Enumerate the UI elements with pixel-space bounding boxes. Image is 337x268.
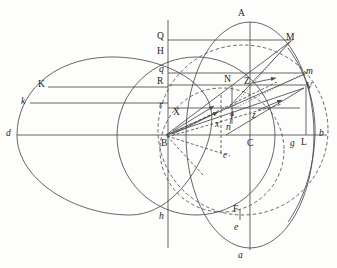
point-label-V: V	[306, 82, 313, 92]
point-label-c: c	[223, 151, 227, 161]
point-label-Q: Q	[157, 32, 164, 42]
point-label-d: d	[6, 129, 11, 139]
point-label-a: a	[238, 251, 243, 261]
point-label-m: m	[306, 67, 313, 77]
point-label-h: h	[159, 212, 164, 222]
point-label-L: L	[301, 138, 307, 148]
ray-B-to-V	[166, 88, 304, 135]
point-label-M: M	[286, 33, 294, 43]
point-label-H: H	[157, 47, 164, 57]
point-label-n: n	[226, 123, 231, 133]
point-label-X: X	[173, 108, 180, 118]
point-label-Z: Z	[244, 77, 250, 87]
point-label-A: A	[238, 9, 245, 19]
point-label-z: z	[252, 111, 256, 121]
point-label-x: x	[215, 120, 219, 130]
point-label-B: B	[161, 139, 167, 149]
circle-centre-B	[117, 57, 275, 215]
dashed-B-to-lower	[167, 136, 203, 175]
point-label-K: K	[38, 80, 45, 90]
point-label-r: r	[159, 101, 163, 111]
point-label-N: N	[224, 75, 231, 85]
segment-N-to-M	[228, 41, 291, 108]
dashed-B-to-c	[167, 136, 230, 156]
point-label-q: q	[159, 65, 164, 75]
point-label-e: e	[234, 223, 238, 233]
point-label-b: b	[319, 129, 324, 139]
segment-C-to-V	[226, 88, 304, 135]
geometric-diagram-figure: AQMHqmRKNZVkrXzxndbBCgLcFhea	[0, 0, 337, 268]
left-oval-outline	[17, 57, 212, 215]
point-label-g: g	[290, 139, 295, 149]
point-label-R: R	[157, 77, 163, 87]
point-label-k: k	[21, 97, 25, 107]
point-label-C: C	[247, 139, 253, 149]
point-label-F: F	[233, 205, 238, 215]
